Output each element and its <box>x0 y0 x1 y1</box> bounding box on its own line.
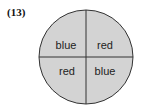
section-label-bottom-left: red <box>59 65 75 77</box>
section-label-top-left: blue <box>56 39 77 51</box>
spinner-diagram: blue red red blue <box>0 0 141 110</box>
section-label-top-right: red <box>97 39 113 51</box>
section-label-bottom-right: blue <box>95 65 116 77</box>
